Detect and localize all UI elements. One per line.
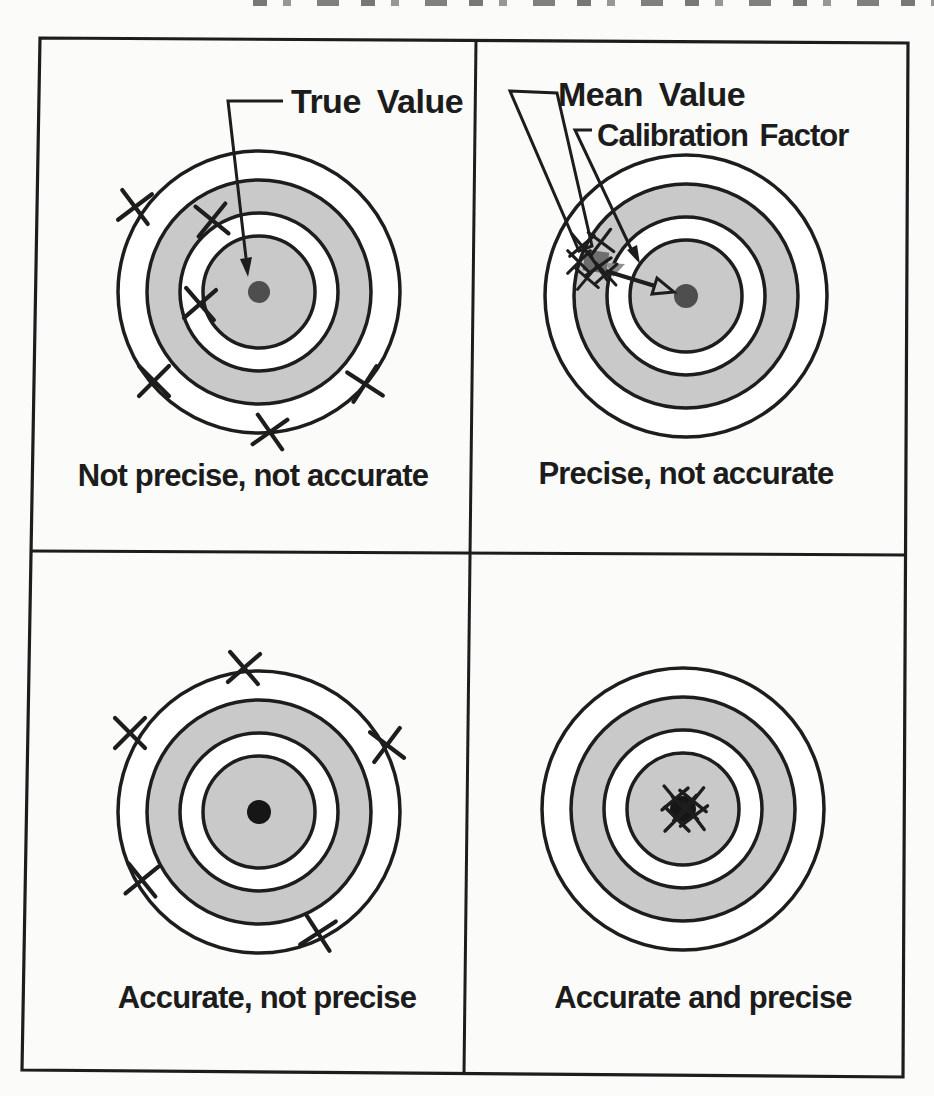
calibration-factor-label: Calibration Factor <box>597 118 849 153</box>
scanned-page: True Value Mean Value Calibration Factor… <box>0 0 934 1096</box>
true-value-label: True Value <box>291 82 463 120</box>
accuracy-precision-figure: True Value Mean Value Calibration Factor… <box>0 0 934 1096</box>
center-dot <box>247 800 271 824</box>
caption-accurate-and-precise: Accurate and precise <box>554 980 852 1015</box>
frame-divider-horizontal <box>31 551 905 555</box>
target-top-right <box>545 155 827 437</box>
caption-accurate-not-precise: Accurate, not precise <box>118 980 417 1015</box>
center-dot <box>248 281 270 303</box>
target-top-left <box>118 151 400 433</box>
frame-divider-vertical <box>464 41 476 1074</box>
caption-precise-not-accurate: Precise, not accurate <box>538 456 834 491</box>
target-bottom-left <box>118 671 400 953</box>
mean-value-label: Mean Value <box>558 75 745 113</box>
caption-not-precise-not-accurate: Not precise, not accurate <box>78 458 429 493</box>
center-dot <box>674 284 698 308</box>
